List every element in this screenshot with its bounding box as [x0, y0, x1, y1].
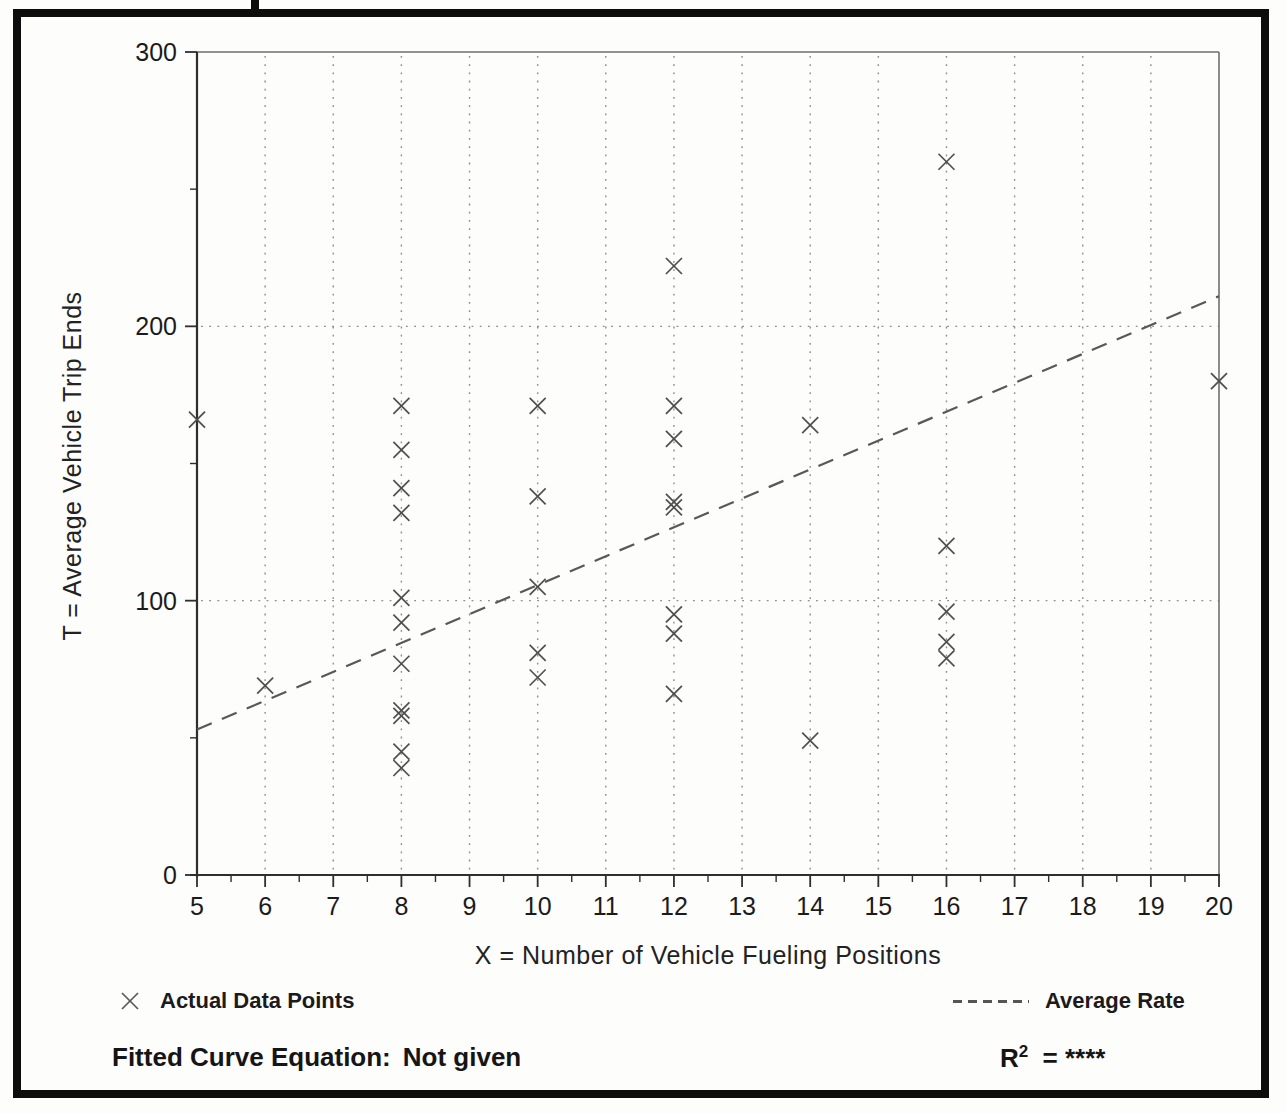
average-rate-line [197, 296, 1219, 729]
fitted-curve-equation: Fitted Curve Equation: Not given [112, 1042, 521, 1073]
x-tick-label: 6 [258, 892, 272, 920]
y-tick-label: 0 [163, 861, 177, 889]
r-squared-statistic: R2 = **** [1000, 1042, 1105, 1074]
x-tick-label: 16 [933, 892, 961, 920]
legend-average-rate-label: Average Rate [1045, 988, 1185, 1014]
x-tick-label: 13 [728, 892, 756, 920]
r-squared-exponent: 2 [1019, 1042, 1028, 1061]
x-tick-label: 12 [660, 892, 688, 920]
x-tick-label: 5 [190, 892, 204, 920]
x-tick-label: 7 [326, 892, 340, 920]
fitted-curve-equation-label: Fitted Curve Equation: [112, 1042, 391, 1073]
x-tick-label: 14 [796, 892, 824, 920]
x-marker-icon [120, 991, 140, 1011]
dashed-line-icon [953, 1000, 1029, 1003]
legend-average-rate: Average Rate [953, 988, 1185, 1014]
x-tick-label: 17 [1001, 892, 1029, 920]
scanned-figure-page: 5678910111213141516171819200100200300 T … [0, 0, 1286, 1113]
x-tick-label: 9 [463, 892, 477, 920]
legend-actual-data-label: Actual Data Points [160, 988, 354, 1014]
x-tick-label: 20 [1205, 892, 1233, 920]
y-tick-label: 100 [135, 587, 177, 615]
x-tick-label: 19 [1137, 892, 1165, 920]
x-tick-label: 11 [593, 892, 619, 920]
x-tick-label: 18 [1069, 892, 1097, 920]
x-tick-label: 10 [524, 892, 552, 920]
x-tick-label: 15 [864, 892, 892, 920]
y-tick-label: 200 [135, 312, 177, 340]
fitted-curve-equation-value: Not given [403, 1042, 521, 1073]
x-axis-title: X = Number of Vehicle Fueling Positions [475, 941, 941, 970]
legend-actual-data-points: Actual Data Points [120, 988, 354, 1014]
x-tick-label: 8 [394, 892, 408, 920]
y-tick-label: 300 [135, 38, 177, 66]
r-squared-value: = **** [1042, 1043, 1105, 1073]
y-axis-title: T = Average Vehicle Trip Ends [58, 291, 87, 640]
r-squared-base: R [1000, 1043, 1019, 1073]
